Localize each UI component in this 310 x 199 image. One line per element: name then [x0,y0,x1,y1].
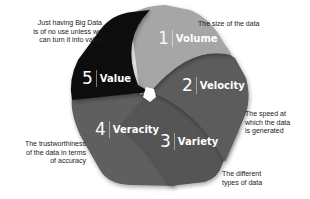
segment-label-value: 5 Value [82,70,131,87]
note-variety: The different types of data [222,170,302,187]
note-value: Just having Big Data is of no use unless… [20,19,102,45]
note-velocity: The speed at which the data is generated [245,110,309,136]
segment-label-variety: 3 Variety [160,133,218,150]
number-3-icon: 3 [160,133,175,150]
five-vs-diagram: 1 Volume 2 Velocity 3 Variety 4 Veracity… [0,0,310,199]
number-4-icon: 4 [95,121,110,138]
segment-label-veracity: 4 Veracity [95,121,159,138]
segment-label-velocity: 2 Velocity [182,77,245,94]
number-2-icon: 2 [182,77,197,94]
note-volume: The size of the data [198,20,298,29]
segment-label-volume: 1 Volume [158,30,218,47]
note-veracity: The trustworthiness of the data in terms… [2,140,86,166]
number-1-icon: 1 [158,30,173,47]
number-5-icon: 5 [82,70,97,87]
